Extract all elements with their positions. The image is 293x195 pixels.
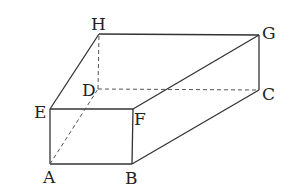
edge-HG <box>99 34 259 35</box>
edge-DC-hidden <box>98 89 259 90</box>
label-B: B <box>125 168 138 188</box>
label-G: G <box>262 23 276 43</box>
label-H: H <box>91 14 106 34</box>
label-A: A <box>42 167 56 187</box>
prism-diagram: H G D C E F A B <box>0 0 293 195</box>
label-C: C <box>262 84 275 104</box>
label-D: D <box>82 80 96 100</box>
edge-BF <box>132 109 133 164</box>
label-F: F <box>134 109 146 129</box>
edge-DH-hidden <box>98 34 99 89</box>
edge-FG <box>133 35 259 109</box>
label-E: E <box>34 102 46 122</box>
edge-AD-hidden <box>50 89 98 164</box>
edge-CB <box>132 90 259 164</box>
